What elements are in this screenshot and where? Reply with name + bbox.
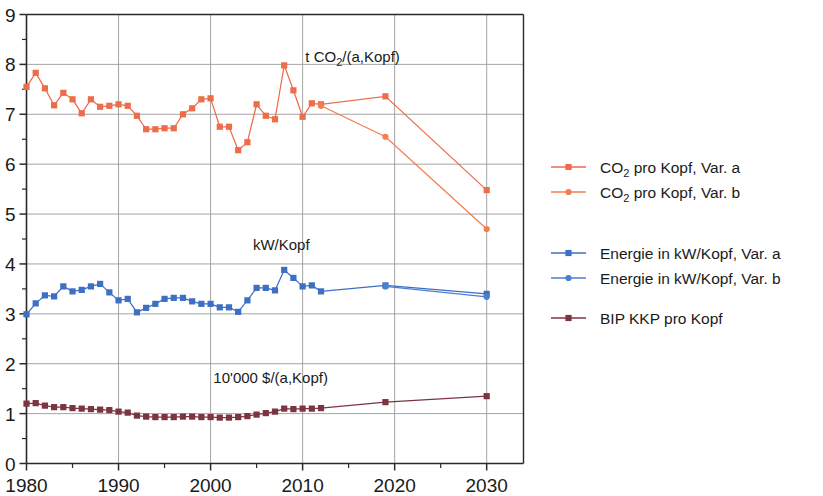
x-tick-label: 2010 [281,475,323,496]
data-point-marker [300,406,306,412]
data-point-marker [161,296,167,302]
data-point-marker [60,404,66,410]
x-tick-label: 1980 [5,475,47,496]
x-tick-label: 2030 [466,475,508,496]
data-point-marker [281,267,287,273]
data-point-marker [143,126,149,132]
data-point-marker [23,311,29,317]
data-point-marker [253,285,259,291]
data-point-marker [263,285,269,291]
legend-item-4[interactable]: BIP KKP pro Kopf [551,310,723,327]
legend-item-2[interactable]: Energie in kW/Kopf, Var. a [551,245,781,262]
data-point-marker [290,275,296,281]
data-point-marker [106,407,112,413]
data-point-marker [217,304,223,310]
data-point-marker [565,275,571,281]
chart-container: 0123456789198019902000201020202030t CO2/… [0,0,823,496]
data-point-marker [244,297,250,303]
data-point-marker [134,413,140,419]
data-point-marker [272,409,278,415]
data-point-marker [300,283,306,289]
data-point-marker [51,293,57,299]
data-point-marker [106,289,112,295]
data-point-marker [115,297,121,303]
data-point-marker [125,410,131,416]
energy-unit-label: kW/Kopf [253,236,311,253]
data-point-marker [207,95,213,101]
data-point-marker [171,125,177,131]
y-tick-label: 1 [5,404,16,425]
data-point-marker [290,406,296,412]
data-point-marker [382,134,388,140]
data-point-marker [382,93,388,99]
data-point-marker [180,111,186,117]
data-point-marker [42,292,48,298]
data-point-marker [79,287,85,293]
data-point-marker [318,405,324,411]
data-point-marker [51,404,57,410]
data-point-marker [198,414,204,420]
legend-label: CO2 pro Kopf, Var. b [600,184,740,204]
data-point-marker [235,147,241,153]
data-point-marker [198,301,204,307]
data-point-marker [125,103,131,109]
co2-unit-label: t CO2/(a,Kopf) [305,48,400,68]
data-point-marker [115,409,121,415]
x-tick-label: 2000 [189,475,231,496]
data-point-marker [33,300,39,306]
data-point-marker [198,96,204,102]
data-point-marker [217,124,223,130]
y-tick-label: 5 [5,204,16,225]
data-point-marker [33,400,39,406]
y-tick-label: 6 [5,154,16,175]
data-point-marker [207,301,213,307]
data-point-marker [318,288,324,294]
data-point-marker [565,315,571,321]
data-point-marker [565,164,571,170]
data-point-marker [33,70,39,76]
legend-item-1[interactable]: CO2 pro Kopf, Var. b [551,184,740,204]
data-point-marker [51,102,57,108]
line-chart: 0123456789198019902000201020202030t CO2/… [0,0,823,496]
data-point-marker [226,304,232,310]
data-point-marker [134,309,140,315]
legend-item-0[interactable]: CO2 pro Kopf, Var. a [551,159,741,179]
data-point-marker [143,414,149,420]
data-point-marker [382,399,388,405]
data-point-marker [309,406,315,412]
data-point-marker [69,288,75,294]
data-point-marker [565,250,571,256]
legend-label: Energie in kW/Kopf, Var. b [600,270,781,287]
legend-label: Energie in kW/Kopf, Var. a [600,245,781,262]
legend-label: CO2 pro Kopf, Var. a [600,159,741,179]
y-tick-label: 7 [5,104,16,125]
data-point-marker [189,414,195,420]
data-point-marker [281,62,287,68]
data-point-marker [226,124,232,130]
data-point-marker [143,305,149,311]
data-point-marker [484,393,490,399]
legend-label: BIP KKP pro Kopf [600,310,723,327]
data-point-marker [106,103,112,109]
data-point-marker [484,294,490,300]
data-point-marker [134,113,140,119]
data-point-marker [79,110,85,116]
data-point-marker [309,282,315,288]
data-point-marker [42,403,48,409]
data-point-marker [235,309,241,315]
data-point-marker [69,405,75,411]
data-point-marker [152,126,158,132]
data-point-marker [217,415,223,421]
data-point-marker [88,96,94,102]
data-point-marker [253,101,259,107]
y-tick-label: 4 [5,254,16,275]
data-point-marker [79,406,85,412]
data-point-marker [180,414,186,420]
legend-item-3[interactable]: Energie in kW/Kopf, Var. b [551,270,781,287]
data-point-marker [244,139,250,145]
gdp-unit-label: 10'000 $/(a,Kopf) [213,369,328,386]
data-point-marker [42,85,48,91]
data-point-marker [565,189,571,195]
data-point-marker [60,283,66,289]
data-point-marker [207,414,213,420]
